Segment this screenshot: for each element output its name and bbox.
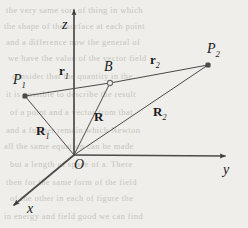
vector-diagram-canvas (0, 0, 248, 228)
point-label-P1: P1 (13, 73, 26, 89)
vector-line-R (74, 83, 110, 155)
vector-label-r2: r2 (150, 53, 160, 70)
point-marker-P2 (205, 62, 210, 67)
vector-label-R: R (94, 110, 103, 123)
axis-line-y (74, 155, 225, 156)
axis-label-z: z (62, 18, 67, 32)
vector-label-r1: r1 (59, 64, 69, 81)
points-group (22, 62, 210, 98)
vector-line-r1 (25, 83, 110, 96)
point-label-B: B (104, 60, 113, 74)
point-marker-P1 (22, 93, 27, 98)
origin-label: O (74, 158, 84, 172)
vectors-group (25, 65, 208, 155)
vector-line-R1 (25, 96, 74, 155)
axes-group (14, 10, 225, 205)
axis-label-x: x (27, 202, 33, 216)
axis-line-x (14, 155, 74, 205)
vector-label-R1: R1 (36, 124, 49, 141)
vector-label-R2: R2 (153, 105, 166, 122)
point-label-P2: P2 (207, 42, 220, 58)
axis-label-y: y (223, 163, 229, 177)
point-marker-B (107, 80, 112, 85)
